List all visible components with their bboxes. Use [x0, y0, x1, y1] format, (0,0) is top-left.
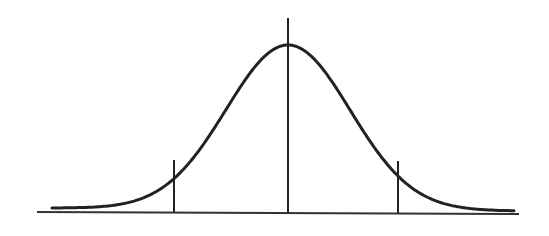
- baseline-axis: [37, 212, 519, 214]
- bell-curve-diagram: [0, 0, 549, 236]
- marker-lines: [174, 18, 398, 213]
- bell-curve: [52, 45, 514, 211]
